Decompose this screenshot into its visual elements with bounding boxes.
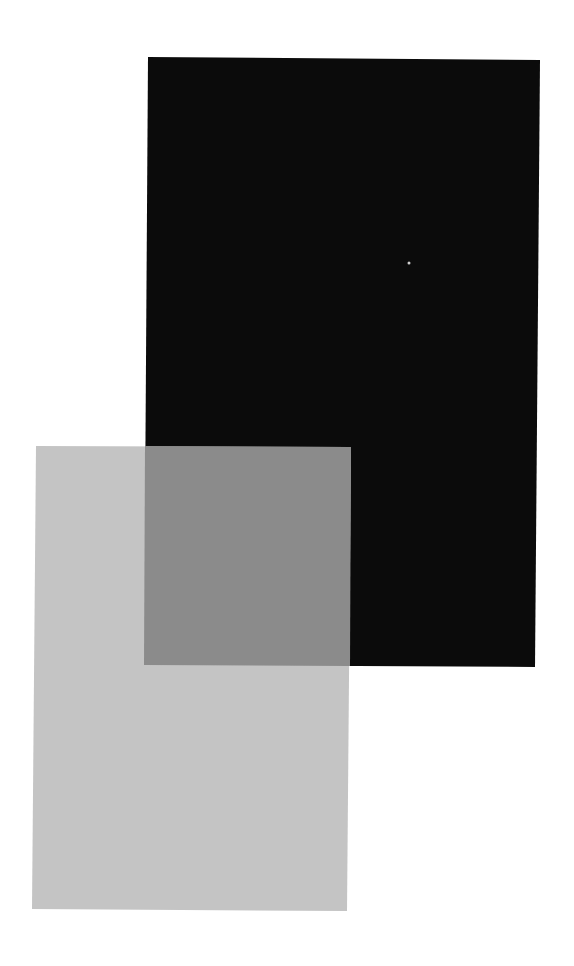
overlap-region (144, 446, 351, 666)
speck-dot (408, 262, 411, 265)
canvas (0, 0, 574, 966)
